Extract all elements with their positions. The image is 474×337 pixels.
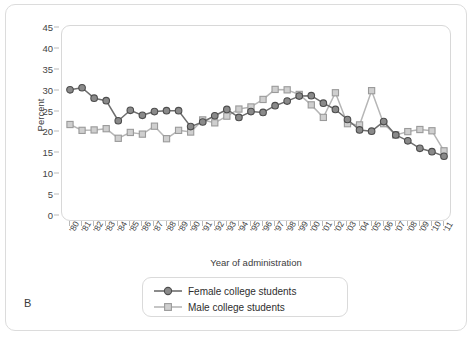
panel-label: B (24, 297, 32, 309)
data-point-circle (248, 108, 255, 115)
y-tick-mark (54, 152, 59, 153)
data-point-square (417, 126, 423, 132)
y-tick-label: 30 (27, 84, 53, 95)
chart-legend: Female college students Male college stu… (142, 277, 348, 317)
data-point-circle (260, 109, 267, 116)
data-point-circle (211, 112, 218, 119)
y-tick-label: 20 (27, 126, 53, 137)
plot-area (61, 25, 451, 221)
data-point-square (429, 128, 435, 134)
data-point-square (67, 121, 73, 127)
data-point-square (320, 114, 326, 120)
data-point-square (91, 127, 97, 133)
legend-label-male: Male college students (188, 302, 285, 313)
data-point-square (308, 102, 314, 108)
y-tick-label: 35 (27, 63, 53, 74)
series-line (70, 89, 444, 150)
y-tick-label: 0 (27, 210, 53, 221)
data-point-circle (67, 87, 74, 94)
y-tick-mark (54, 110, 59, 111)
data-point-square (272, 86, 278, 92)
data-point-square (236, 106, 242, 112)
series-female (67, 84, 448, 159)
data-point-circle (272, 102, 279, 109)
y-axis: Percent 051015202530354045 (26, 19, 61, 227)
data-point-square (151, 123, 157, 129)
data-point-circle (296, 93, 303, 100)
data-point-square (405, 129, 411, 135)
data-point-square (260, 96, 266, 102)
legend-marker-square (153, 300, 183, 314)
y-tick-label: 25 (27, 105, 53, 116)
data-point-circle (344, 116, 351, 123)
y-tick-mark (54, 47, 59, 48)
data-point-circle (151, 108, 158, 115)
legend-item-female: Female college students (153, 283, 337, 299)
data-point-circle (320, 100, 327, 107)
data-point-square (103, 126, 109, 132)
data-point-square (79, 127, 85, 133)
y-tick-mark (54, 131, 59, 132)
y-tick-label: 45 (27, 22, 53, 33)
data-point-square (175, 127, 181, 133)
data-point-circle (356, 127, 363, 134)
data-point-circle (380, 118, 387, 125)
legend-item-male: Male college students (153, 299, 337, 315)
data-point-circle (441, 153, 448, 160)
data-point-circle (429, 148, 436, 155)
data-point-circle (79, 84, 86, 91)
data-point-square (369, 88, 375, 94)
data-point-circle (115, 117, 122, 124)
data-point-circle (175, 107, 182, 114)
data-point-circle (187, 123, 194, 130)
data-point-circle (236, 114, 243, 121)
data-point-circle (284, 98, 291, 105)
data-point-circle (199, 119, 206, 126)
data-point-circle (405, 138, 412, 145)
data-point-circle (91, 95, 98, 102)
data-point-circle (417, 145, 424, 152)
y-tick-label: 40 (27, 42, 53, 53)
y-tick-label: 15 (27, 147, 53, 158)
x-axis-title: Year of administration (210, 257, 302, 268)
data-point-circle (332, 106, 339, 113)
data-point-square (127, 129, 133, 135)
data-point-square (224, 113, 230, 119)
data-point-circle (368, 128, 375, 135)
data-point-circle (392, 132, 399, 139)
data-point-circle (103, 97, 110, 104)
y-tick-label: 10 (27, 168, 53, 179)
data-point-circle (224, 106, 231, 113)
data-point-circle (308, 92, 315, 99)
data-point-square (139, 131, 145, 137)
series-male (67, 86, 447, 154)
chart-svg (62, 26, 451, 221)
series-line (70, 88, 444, 157)
data-point-square (115, 135, 121, 141)
data-point-square (163, 136, 169, 142)
data-point-square (284, 87, 290, 93)
y-tick-mark (54, 89, 59, 90)
data-point-square (332, 90, 338, 96)
data-point-circle (127, 107, 134, 114)
y-tick-label: 5 (27, 189, 53, 200)
y-tick-mark (54, 27, 59, 28)
y-tick-mark (54, 173, 59, 174)
data-point-circle (139, 112, 146, 119)
legend-label-female: Female college students (188, 286, 296, 297)
data-point-circle (163, 107, 170, 114)
y-tick-mark (54, 194, 59, 195)
x-axis: '80'81'82'83'84'85'86'87'88'89'90'91'92'… (61, 221, 451, 261)
figure-card: B Percent 051015202530354045 '80'81'82'8… (5, 4, 467, 331)
data-point-square (212, 120, 218, 126)
legend-marker-circle (153, 284, 183, 298)
y-tick-mark (54, 68, 59, 69)
y-tick-mark (54, 215, 59, 216)
